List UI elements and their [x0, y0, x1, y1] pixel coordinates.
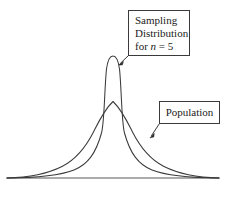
distribution-curves-canvas	[0, 0, 227, 199]
callout-sampling-line-3-prefix: for	[135, 40, 151, 52]
population-callout-arrow	[150, 124, 160, 138]
sampling-callout-arrow	[119, 56, 129, 66]
callout-sampling-line-3-suffix: = 5	[156, 40, 173, 52]
callout-sampling-distribution: Sampling Distribution for n = 5	[128, 10, 190, 56]
callout-population-label: Population	[166, 106, 214, 119]
sampling-distribution-figure: Sampling Distribution for n = 5 Populati…	[0, 0, 227, 199]
callout-sampling-line-3: for n = 5	[135, 40, 184, 53]
callout-sampling-line-2: Distribution	[135, 27, 184, 40]
callout-sampling-line-1: Sampling	[135, 14, 184, 27]
callout-population: Population	[159, 101, 220, 124]
